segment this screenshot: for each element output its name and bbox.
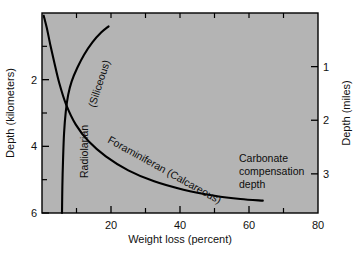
chart-svg: 20406080 246 123 Radiolarian (Siliceous)… xyxy=(0,0,361,253)
y2-tick-label: 1 xyxy=(323,61,329,73)
y2-axis-title: Depth (miles) xyxy=(340,80,352,145)
curve-label-radiolarian: Radiolarian xyxy=(78,125,90,178)
annotation-line-3: depth xyxy=(239,178,265,190)
y2-tick-label: 2 xyxy=(323,114,329,126)
y2-tick-label: 3 xyxy=(323,168,329,180)
x-tick-label: 60 xyxy=(243,219,255,231)
x-tick-label: 20 xyxy=(105,219,117,231)
y-tick-label: 2 xyxy=(31,74,37,86)
annotation-line-2: compensation xyxy=(239,165,305,177)
x-tick-label: 40 xyxy=(174,219,186,231)
x-tick-label: 80 xyxy=(312,219,324,231)
annotation-line-1: Carbonate xyxy=(239,152,288,164)
y-tick-label: 6 xyxy=(31,207,37,219)
y-axis-title: Depth (kilometers) xyxy=(4,68,16,158)
y-tick-label: 4 xyxy=(31,140,37,152)
x-axis-title: Weight loss (percent) xyxy=(128,233,232,245)
figure-container: 20406080 246 123 Radiolarian (Siliceous)… xyxy=(0,0,361,253)
